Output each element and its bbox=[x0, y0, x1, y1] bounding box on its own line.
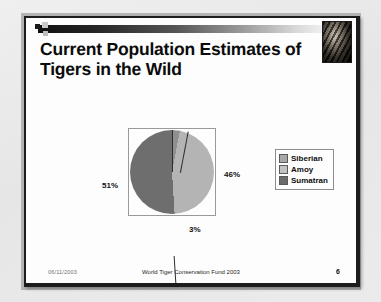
footer-attribution: World Tiger Conservation Fund 2003 bbox=[26, 269, 356, 275]
pie-chart-plot-area bbox=[128, 128, 216, 216]
footer-page-number: 6 bbox=[336, 268, 340, 275]
legend-label-siberian: Siberian bbox=[291, 154, 323, 163]
pie-label-siberian: 3% bbox=[189, 225, 201, 234]
legend-item-sumatran[interactable]: Sumatran bbox=[279, 175, 328, 186]
legend-swatch-icon-siberian bbox=[279, 154, 288, 163]
header-gradient-band bbox=[38, 25, 338, 33]
pie-slice-divider bbox=[180, 131, 189, 172]
header-square-icon-3 bbox=[43, 31, 48, 36]
legend-label-sumatran: Sumatran bbox=[291, 176, 328, 185]
pie-chart bbox=[130, 130, 214, 214]
header-square-icon-2 bbox=[42, 22, 48, 28]
presentation-slide[interactable]: Current Population Estimates of Tigers i… bbox=[26, 18, 356, 283]
page-title: Current Population Estimates of Tigers i… bbox=[40, 39, 336, 80]
legend-label-amoy: Amoy bbox=[291, 165, 313, 174]
pie-label-amoy: 46% bbox=[224, 170, 240, 179]
pie-label-sumatran: 51% bbox=[102, 181, 118, 190]
legend-swatch-icon-sumatran bbox=[279, 176, 288, 185]
legend-swatch-icon-amoy bbox=[279, 165, 288, 174]
legend-item-siberian[interactable]: Siberian bbox=[279, 153, 328, 164]
chart-legend: Siberian Amoy Sumatran bbox=[275, 149, 334, 190]
legend-item-amoy[interactable]: Amoy bbox=[279, 164, 328, 175]
header-square-icon-1 bbox=[35, 24, 40, 29]
pie-slice-divider bbox=[172, 130, 173, 172]
